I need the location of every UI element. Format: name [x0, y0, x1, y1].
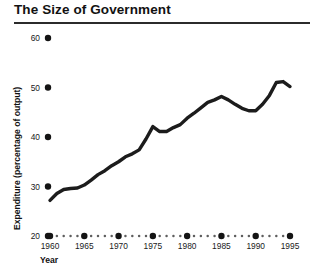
x-tick-label: 1980	[178, 241, 197, 251]
y-axis-title: Expenditure (percentage of output)	[12, 87, 22, 230]
x-axis-major-tick-dots	[47, 233, 293, 239]
x-minor-tick-dot	[179, 235, 182, 238]
x-major-tick-dot	[218, 233, 224, 239]
chart-figure: The Size of Government 2030405060 196019…	[0, 0, 321, 267]
x-major-tick-dot	[115, 233, 121, 239]
x-minor-tick-dot	[97, 235, 100, 238]
x-major-tick-dot	[150, 233, 156, 239]
x-minor-tick-dot	[172, 235, 175, 238]
y-tick-dot	[45, 35, 51, 41]
x-major-tick-dot	[253, 233, 259, 239]
y-axis-tick-dots	[45, 35, 51, 239]
x-minor-tick-dot	[138, 235, 141, 238]
x-minor-tick-dot	[193, 235, 196, 238]
x-axis-title: Year	[40, 255, 59, 265]
x-minor-tick-dot	[110, 235, 113, 238]
x-tick-label: 1965	[75, 241, 94, 251]
y-tick-label: 20	[31, 231, 41, 241]
y-axis-tick-labels: 2030405060	[31, 33, 41, 241]
x-minor-tick-dot	[76, 235, 79, 238]
x-minor-tick-dot	[282, 235, 285, 238]
x-minor-tick-dot	[268, 235, 271, 238]
x-tick-label: 1985	[212, 241, 231, 251]
x-minor-tick-dot	[227, 235, 230, 238]
x-minor-tick-dot	[90, 235, 93, 238]
x-tick-label: 1990	[246, 241, 265, 251]
x-minor-tick-dot	[213, 235, 216, 238]
x-major-tick-dot	[81, 233, 87, 239]
x-minor-tick-dot	[234, 235, 237, 238]
y-tick-label: 30	[31, 182, 41, 192]
x-minor-tick-dot	[69, 235, 72, 238]
x-minor-tick-dot	[248, 235, 251, 238]
x-axis-tick-labels: 19601965197019751980198519901995	[41, 241, 300, 251]
x-major-tick-dot	[184, 233, 190, 239]
x-minor-tick-dot	[104, 235, 107, 238]
y-tick-dot	[45, 134, 51, 140]
x-minor-tick-dot	[145, 235, 148, 238]
x-minor-tick-dot	[261, 235, 264, 238]
y-tick-dot	[45, 183, 51, 189]
x-major-tick-dot	[287, 233, 293, 239]
y-tick-dot	[45, 84, 51, 90]
y-tick-label: 50	[31, 83, 41, 93]
x-minor-tick-dot	[200, 235, 203, 238]
x-axis-minor-tick-dots	[56, 235, 285, 238]
data-series-line	[50, 82, 290, 201]
x-minor-tick-dot	[241, 235, 244, 238]
x-major-tick-dot	[47, 233, 53, 239]
x-minor-tick-dot	[158, 235, 161, 238]
y-tick-label: 40	[31, 132, 41, 142]
x-minor-tick-dot	[131, 235, 134, 238]
x-minor-tick-dot	[206, 235, 209, 238]
line-chart-plot: 2030405060 19601965197019751980198519901…	[0, 0, 321, 267]
x-tick-label: 1960	[41, 241, 60, 251]
x-tick-label: 1975	[144, 241, 163, 251]
x-minor-tick-dot	[56, 235, 59, 238]
x-minor-tick-dot	[275, 235, 278, 238]
x-minor-tick-dot	[124, 235, 127, 238]
x-tick-label: 1995	[281, 241, 300, 251]
x-minor-tick-dot	[62, 235, 65, 238]
x-minor-tick-dot	[165, 235, 168, 238]
x-tick-label: 1970	[109, 241, 128, 251]
y-tick-label: 60	[31, 33, 41, 43]
